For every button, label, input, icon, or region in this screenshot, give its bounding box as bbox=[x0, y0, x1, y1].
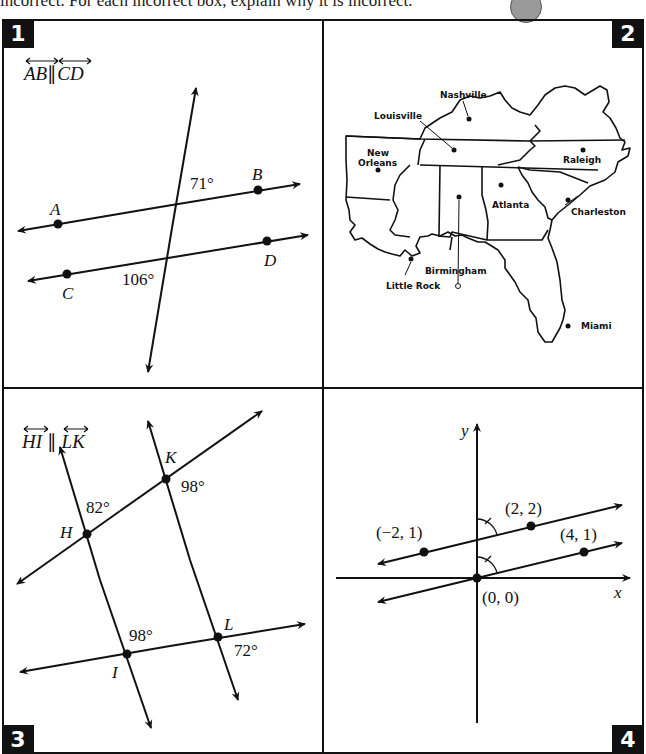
upper-line bbox=[477, 505, 622, 540]
y-axis-label: y bbox=[459, 421, 469, 440]
point-origin bbox=[473, 574, 482, 583]
point-4-1 bbox=[580, 548, 589, 557]
point-2-2 bbox=[527, 522, 536, 531]
lower-line bbox=[477, 543, 622, 578]
point-neg2-1 bbox=[420, 548, 429, 557]
label-neg2-1: (−2, 1) bbox=[376, 523, 422, 542]
label-origin: (0, 0) bbox=[482, 588, 519, 607]
label-4-1: (4, 1) bbox=[560, 525, 597, 544]
x-axis-label: x bbox=[613, 583, 622, 602]
label-2-2: (2, 2) bbox=[505, 499, 542, 518]
